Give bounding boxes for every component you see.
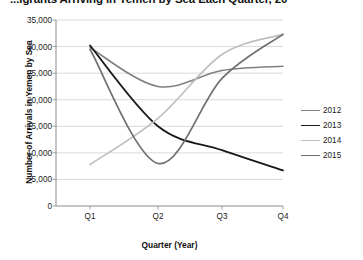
legend-label-2014: 2014: [323, 136, 341, 146]
legend-item-2014[interactable]: 2014: [301, 133, 363, 148]
legend-item-2015[interactable]: 2015: [301, 148, 363, 163]
series-line-2015: [90, 34, 283, 163]
series-lines: [90, 34, 283, 170]
x-axis-tick-label: Q1: [85, 212, 96, 221]
x-axis-tick-label: Q4: [278, 212, 289, 221]
legend-swatch-2015: [301, 155, 320, 156]
legend-label-2015: 2015: [323, 151, 341, 161]
legend-item-2013[interactable]: 2013: [301, 118, 363, 133]
x-axis-tick-label: Q3: [217, 212, 228, 221]
legend-swatch-2013: [301, 125, 320, 126]
x-axis-tick-label: Q2: [153, 212, 164, 221]
legend-swatch-2012: [301, 110, 320, 111]
gridlines: [56, 20, 283, 179]
chart-legend: 2012201320142015: [301, 103, 363, 163]
legend-label-2013: 2013: [323, 121, 341, 131]
legend-label-2012: 2012: [323, 106, 341, 116]
chart-container: ...igrants Arriving in Yemen by Sea Each…: [0, 0, 363, 260]
tick-marks: [53, 20, 284, 210]
legend-swatch-2014: [301, 140, 320, 141]
x-axis-title: Quarter (Year): [56, 240, 283, 250]
legend-item-2012[interactable]: 2012: [301, 103, 363, 118]
